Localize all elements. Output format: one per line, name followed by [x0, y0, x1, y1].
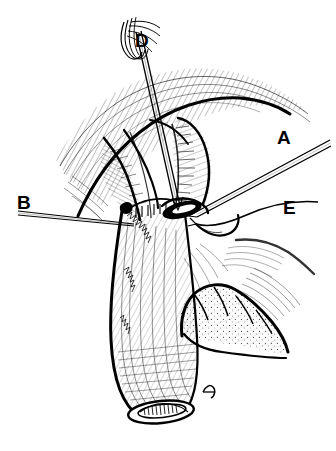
- label-a: A: [277, 128, 291, 147]
- label-b: B: [17, 193, 31, 212]
- illustration-canvas: [0, 0, 336, 451]
- label-e: E: [283, 198, 296, 217]
- label-d: D: [135, 31, 149, 50]
- surgical-illustration-figure: A B D E: [0, 0, 336, 451]
